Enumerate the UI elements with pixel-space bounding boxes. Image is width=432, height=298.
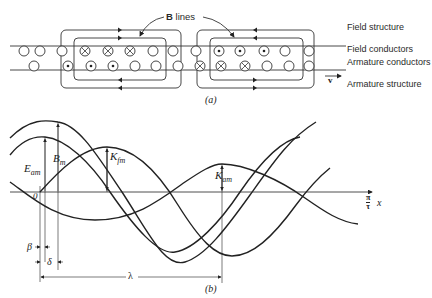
- dot-icon: [90, 65, 93, 68]
- b-lines-label-text: lines: [173, 11, 195, 22]
- dot-icon: [263, 50, 266, 53]
- conductor-empty: [148, 46, 158, 56]
- conductor-empty: [262, 61, 272, 71]
- label-bm-main: B: [53, 152, 60, 164]
- conductor-empty: [35, 46, 45, 56]
- x-axis-label: π τ: [366, 194, 370, 211]
- part-b: [10, 121, 372, 283]
- dot-icon: [112, 65, 115, 68]
- beta-label: β: [27, 241, 32, 252]
- label-kam-sub: am: [222, 175, 232, 184]
- b-line-left-inner: [74, 38, 166, 80]
- x-axis-var: x: [377, 197, 381, 208]
- conductor-empty: [19, 46, 29, 56]
- conductor-dot: [214, 46, 224, 56]
- label-armature-structure: Armature structure: [347, 79, 422, 89]
- conductor-empty: [280, 46, 290, 56]
- conductor-empty: [304, 61, 314, 71]
- conductor-dot: [108, 61, 118, 71]
- conductor-cross: [240, 61, 250, 71]
- label-field-conductors: Field conductors: [347, 44, 413, 54]
- b-line-arrows: [118, 28, 257, 91]
- field-conductor-row: [19, 46, 314, 56]
- conductor-empty: [151, 61, 161, 71]
- label-eam-main: E: [24, 162, 31, 174]
- label-kam: Kam: [215, 169, 232, 184]
- conductor-empty: [29, 61, 39, 71]
- label-bm-sub: m: [60, 158, 66, 167]
- conductor-empty: [173, 61, 183, 71]
- b-lines-label: B lines: [166, 11, 195, 22]
- conductor-empty: [57, 46, 67, 56]
- conductor-empty: [130, 61, 140, 71]
- velocity-label: v: [328, 75, 333, 85]
- origin-label: 0: [33, 191, 38, 201]
- curve-kf: [40, 147, 330, 256]
- conductor-dot: [235, 46, 245, 56]
- conductor-cross: [125, 46, 135, 56]
- conductor-empty: [191, 46, 201, 56]
- lambda-label: λ: [128, 270, 133, 281]
- label-eam-sub: am: [31, 168, 41, 177]
- delta-label: δ: [47, 256, 52, 267]
- caption-a: (a): [205, 94, 217, 105]
- conductor-dot: [63, 61, 73, 71]
- conductor-dot: [86, 61, 96, 71]
- b-lines-label-bold: B: [166, 11, 173, 22]
- label-kfm: Kfm: [110, 150, 125, 165]
- dot-icon: [239, 50, 242, 53]
- label-field-structure: Field structure: [347, 22, 404, 32]
- dot-icon: [218, 50, 221, 53]
- dot-icon: [67, 65, 70, 68]
- x-axis-label-den: τ: [366, 203, 370, 211]
- conductor-empty: [304, 46, 314, 56]
- armature-conductor-row: [29, 61, 314, 71]
- conductor-cross: [103, 46, 113, 56]
- conductor-cross: [195, 61, 205, 71]
- b-lines-pointer-left: [140, 17, 164, 36]
- b-lines-pointer-right: [203, 17, 234, 37]
- label-bm: Bm: [53, 152, 66, 167]
- conductor-cross: [216, 61, 226, 71]
- conductor-empty: [168, 46, 178, 56]
- conductor-empty: [284, 61, 294, 71]
- caption-b: (b): [205, 283, 217, 294]
- label-eam: Eam: [24, 162, 41, 177]
- label-kfm-sub: fm: [117, 156, 125, 165]
- b-line-right-inner: [210, 38, 303, 80]
- conductor-dot: [259, 46, 269, 56]
- conductor-cross: [80, 46, 90, 56]
- label-armature-conductors: Armature conductors: [347, 57, 431, 67]
